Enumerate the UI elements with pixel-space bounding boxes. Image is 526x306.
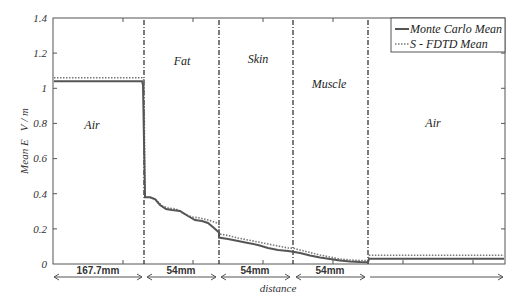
dimension-labels: 167.7mm 54mm 54mm 54mm [77, 265, 345, 276]
series-monte-carlo-mean [54, 81, 504, 262]
y-tick-label: 0 [42, 258, 48, 270]
x-axis-label: distance [260, 282, 297, 294]
region-label-air-left: Air [83, 118, 100, 132]
region-labels: Air Fat Skin Muscle Air [83, 52, 441, 132]
plot-frame [53, 18, 505, 264]
dimension-label-skin: 54mm [241, 265, 270, 276]
legend: Monte Carlo Mean S - FDTD Mean [391, 18, 505, 52]
dimension-label-muscle: 54mm [316, 265, 345, 276]
y-axis-label: Mean E V / m [18, 108, 30, 175]
legend-label-monte-carlo: Monte Carlo Mean [409, 22, 502, 36]
chart: 0 0.2 0.4 0.6 0.8 1 1.2 1.4 Mean E V / m… [0, 0, 526, 306]
y-tick-label: 1 [42, 82, 48, 94]
y-tick-label: 1.4 [33, 12, 47, 24]
y-tick-label: 0.4 [33, 188, 47, 200]
region-label-air-right: Air [424, 116, 441, 130]
dimension-label-fat: 54mm [167, 265, 196, 276]
series-sfdtd-mean [54, 78, 504, 261]
region-label-fat: Fat [173, 54, 191, 68]
region-label-muscle: Muscle [311, 77, 347, 91]
dimension-arrows [54, 274, 503, 280]
y-tick-label: 0.6 [33, 152, 47, 164]
region-label-skin: Skin [248, 52, 269, 66]
y-tick-labels: 0 0.2 0.4 0.6 0.8 1 1.2 1.4 [33, 12, 47, 270]
y-tick-label: 0.2 [33, 223, 47, 235]
dimension-label-air: 167.7mm [77, 265, 120, 276]
y-tick-label: 1.2 [33, 47, 47, 59]
y-tick-label: 0.8 [33, 117, 47, 129]
legend-label-sfdtd: S - FDTD Mean [410, 37, 488, 51]
y-ticks [53, 53, 505, 229]
